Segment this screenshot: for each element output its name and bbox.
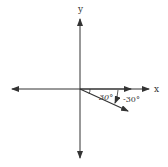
angle-label-positive: 30° bbox=[99, 93, 113, 102]
y-axis-label: y bbox=[77, 4, 84, 14]
x-axis-label: x bbox=[154, 84, 159, 94]
angle-label-negative: -30° bbox=[123, 95, 140, 104]
coordinate-diagram: y x 30° -30° bbox=[0, 0, 168, 167]
angle-arc-outer bbox=[115, 90, 118, 103]
